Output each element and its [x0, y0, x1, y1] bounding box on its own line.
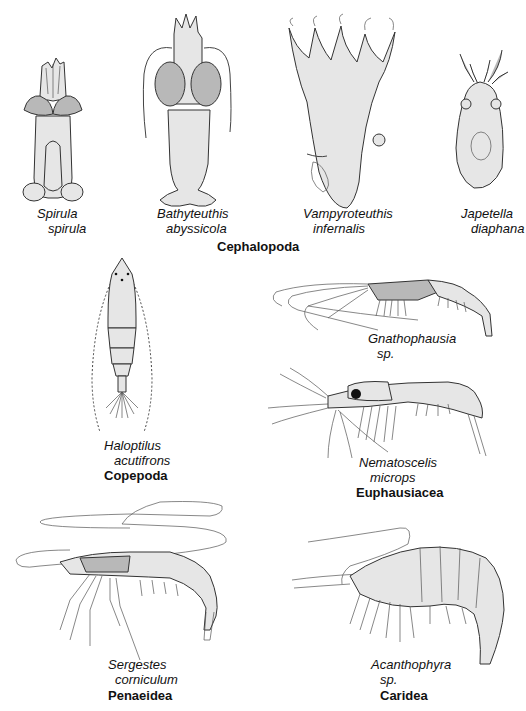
group-label-copepoda: Copepoda — [104, 468, 168, 483]
illustration-vampyroteuthis-infernalis — [283, 12, 403, 212]
illustration-haloptilus-acutifrons — [80, 258, 180, 438]
label-species-vampyroteuthis: infernalis — [313, 221, 365, 236]
group-label-caridea: Caridea — [380, 688, 428, 703]
group-label-euphausiacea: Euphausiacea — [356, 485, 443, 500]
label-species-sergestes: corniculum — [115, 672, 178, 687]
label-species-spirula: spirula — [48, 221, 86, 236]
label-genus-haloptilus: Haloptilus — [104, 438, 161, 453]
label-genus-spirula: Spirula — [37, 206, 77, 221]
illustration-spirula-spirula — [18, 28, 88, 203]
label-genus-japetella: Japetella — [461, 206, 513, 221]
label-genus-vampyroteuthis: Vampyroteuthis — [303, 206, 393, 221]
illustration-japetella-diaphana — [446, 48, 516, 198]
illustration-gnathophausia-sp — [268, 270, 498, 340]
label-genus-bathyteuthis: Bathyteuthis — [157, 206, 229, 221]
label-species-bathyteuthis: abyssicola — [166, 221, 227, 236]
label-genus-gnathophausia: Gnathophausia — [368, 331, 456, 346]
group-label-penaeidea: Penaeidea — [108, 688, 172, 703]
label-species-haloptilus: acutifrons — [114, 453, 170, 468]
illustration-sergestes-corniculum — [10, 500, 240, 665]
label-genus-sergestes: Sergestes — [108, 657, 167, 672]
group-label-cephalopoda: Cephalopoda — [217, 239, 299, 254]
label-genus-acanthophyra: Acanthophyra — [371, 657, 451, 672]
illustration-acanthophyra-sp — [290, 514, 520, 674]
label-species-gnathophausia: sp. — [377, 346, 394, 361]
illustration-nematoscelis-microps — [268, 368, 498, 458]
label-species-japetella: diaphana — [471, 221, 525, 236]
label-species-nematoscelis: microps — [370, 470, 416, 485]
label-genus-nematoscelis: Nematoscelis — [359, 455, 437, 470]
illustration-bathyteuthis-abyssicola — [138, 14, 238, 209]
label-species-acanthophyra: sp. — [380, 672, 397, 687]
